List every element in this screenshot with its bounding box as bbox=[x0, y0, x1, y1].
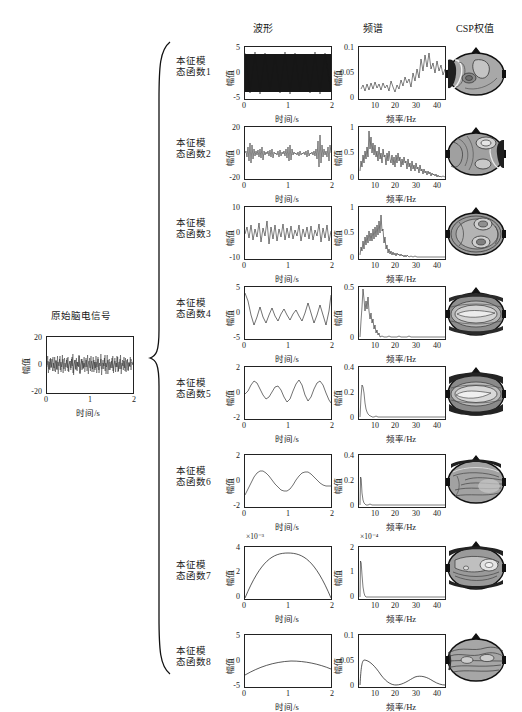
original-signal-xtick-2: 2 bbox=[128, 396, 140, 404]
waveform-ytick-bot: -20 bbox=[216, 174, 240, 182]
waveform-ytick-top: 4 bbox=[222, 544, 240, 552]
waveform-plot-5 bbox=[244, 366, 332, 420]
imf-label-line1: 本征模 bbox=[176, 138, 220, 149]
waveform-xtick-0: 0 bbox=[238, 102, 250, 110]
waveform-plot-4 bbox=[244, 286, 332, 340]
csp-topography-8 bbox=[445, 630, 507, 692]
waveform-xtick-2: 2 bbox=[326, 602, 338, 610]
waveform-xtick-2: 2 bbox=[326, 690, 338, 698]
waveform-ytick-top: 5 bbox=[222, 632, 240, 640]
imf-row-label-5: 本征模 态函数5 bbox=[176, 378, 220, 400]
imf5-spectrum-trace bbox=[359, 367, 445, 419]
imf3-trace bbox=[245, 207, 331, 259]
csp-topography-4 bbox=[445, 284, 507, 346]
imf-label-line2: 态函数6 bbox=[176, 477, 220, 488]
waveform-ytick-mid: 0 bbox=[220, 229, 240, 237]
imf-row-label-6: 本征模 态函数6 bbox=[176, 466, 220, 488]
waveform-xtick-0: 0 bbox=[238, 602, 250, 610]
spectrum-plot-1 bbox=[358, 46, 446, 100]
waveform-ytick-mid: 0 bbox=[222, 69, 240, 77]
imf6-trace bbox=[245, 455, 331, 507]
spectrum-xlabel: 频率/Hz bbox=[372, 700, 430, 712]
imf-label-line2: 态函数2 bbox=[176, 149, 220, 160]
spectrum-exponent-7: ×10⁻⁴ bbox=[360, 532, 378, 541]
waveform-xtick-1: 1 bbox=[282, 602, 294, 610]
csp-topography-1 bbox=[445, 44, 507, 106]
waveform-xtick-2: 2 bbox=[326, 510, 338, 518]
imf-label-line1: 本征模 bbox=[176, 646, 220, 657]
imf3-spectrum-trace bbox=[359, 207, 445, 259]
spectrum-xtick-30: 30 bbox=[409, 102, 423, 110]
imf-row-label-1: 本征模 态函数1 bbox=[176, 56, 220, 78]
waveform-ytick-mid: 0 bbox=[222, 477, 240, 485]
waveform-xlabel: 时间/s bbox=[258, 612, 316, 624]
spectrum-xtick-10: 10 bbox=[368, 422, 382, 430]
waveform-xlabel: 时间/s bbox=[258, 272, 316, 284]
column-header-csp: CSP权值 bbox=[437, 20, 513, 35]
original-signal-ytick-top: 20 bbox=[26, 334, 42, 342]
csp-topography-2 bbox=[445, 124, 507, 186]
waveform-plot-2 bbox=[244, 126, 332, 180]
spectrum-plot-5 bbox=[358, 366, 446, 420]
spectrum-ytick-top: 0.5 bbox=[326, 284, 354, 292]
original-signal-title: 原始脑电信号 bbox=[20, 308, 142, 322]
spectrum-xtick-40: 40 bbox=[430, 182, 444, 190]
waveform-plot-8 bbox=[244, 634, 332, 688]
spectrum-xtick-40: 40 bbox=[430, 262, 444, 270]
waveform-xtick-1: 1 bbox=[282, 102, 294, 110]
spectrum-xtick-30: 30 bbox=[409, 182, 423, 190]
waveform-ytick-top: 2 bbox=[222, 452, 240, 460]
imf-label-line2: 态函数8 bbox=[176, 657, 220, 668]
imf-label-line1: 本征模 bbox=[176, 218, 220, 229]
waveform-ytick-bot: -10 bbox=[216, 254, 240, 262]
spectrum-xtick-20: 20 bbox=[388, 602, 402, 610]
decomposition-brace bbox=[148, 40, 174, 680]
imf-row-label-3: 本征模 态函数3 bbox=[176, 218, 220, 240]
spectrum-plot-8 bbox=[358, 634, 446, 688]
spectrum-xtick-40: 40 bbox=[430, 422, 444, 430]
spectrum-ytick-bot: 0 bbox=[338, 334, 354, 342]
spectrum-xtick-10: 10 bbox=[368, 510, 382, 518]
spectrum-ytick-bot: 0 bbox=[338, 593, 354, 601]
waveform-ytick-mid: 0 bbox=[222, 309, 240, 317]
imf5-trace bbox=[245, 367, 331, 419]
waveform-xtick-2: 2 bbox=[326, 182, 338, 190]
imf-label-line1: 本征模 bbox=[176, 466, 220, 477]
imf7-spectrum-trace bbox=[359, 547, 445, 599]
imf-label-line2: 态函数5 bbox=[176, 389, 220, 400]
spectrum-xtick-40: 40 bbox=[430, 602, 444, 610]
spectrum-ytick-bot: 0 bbox=[338, 174, 354, 182]
spectrum-xlabel: 频率/Hz bbox=[372, 192, 430, 204]
spectrum-ytick-top: 0.1 bbox=[328, 632, 354, 640]
spectrum-plot-2 bbox=[358, 126, 446, 180]
waveform-ytick-top: 5 bbox=[222, 284, 240, 292]
waveform-xlabel: 时间/s bbox=[258, 520, 316, 532]
spectrum-ytick-mid: 0.2 bbox=[326, 477, 354, 485]
original-signal-xlabel: 时间/s bbox=[58, 406, 118, 418]
waveform-xtick-0: 0 bbox=[238, 182, 250, 190]
original-signal-ytick-mid: 0 bbox=[26, 361, 42, 369]
spectrum-xtick-20: 20 bbox=[388, 690, 402, 698]
spectrum-xtick-20: 20 bbox=[388, 262, 402, 270]
waveform-plot-1 bbox=[244, 46, 332, 100]
waveform-xtick-1: 1 bbox=[282, 422, 294, 430]
waveform-ytick-mid: 0 bbox=[220, 149, 240, 157]
waveform-ytick-top: 5 bbox=[222, 44, 240, 52]
imf2-spectrum-trace bbox=[359, 127, 445, 179]
imf-row-label-7: 本征模 态函数7 bbox=[176, 560, 220, 582]
spectrum-plot-4 bbox=[358, 286, 446, 340]
original-signal-trace bbox=[47, 337, 133, 393]
waveform-ytick-bot: 0 bbox=[222, 593, 240, 601]
waveform-xlabel: 时间/s bbox=[258, 192, 316, 204]
waveform-xtick-1: 1 bbox=[282, 510, 294, 518]
waveform-xtick-2: 2 bbox=[326, 342, 338, 350]
imf8-spectrum-trace bbox=[359, 635, 445, 687]
spectrum-ytick-mid: 0.05 bbox=[324, 69, 354, 77]
spectrum-xtick-40: 40 bbox=[430, 102, 444, 110]
waveform-xlabel: 时间/s bbox=[258, 432, 316, 444]
waveform-xtick-1: 1 bbox=[282, 262, 294, 270]
spectrum-ytick-bot: 0 bbox=[338, 682, 354, 690]
imf-label-line1: 本征模 bbox=[176, 560, 220, 571]
waveform-plot-7 bbox=[244, 546, 332, 600]
original-signal-panel: 原始脑电信号 幅值 20 0 -20 0 1 2 时间/s bbox=[14, 308, 142, 400]
